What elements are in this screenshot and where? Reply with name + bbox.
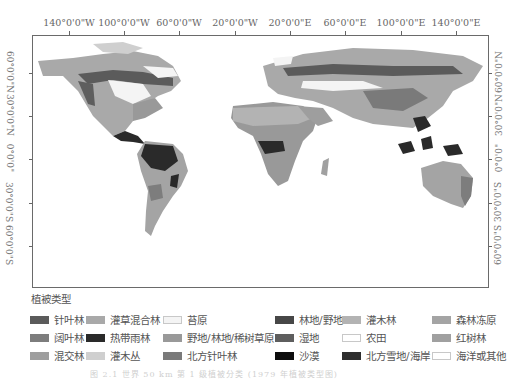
legend-swatch <box>275 334 294 342</box>
lon-label: 100°0'0"W <box>98 17 150 28</box>
legend-label: 灌木林 <box>366 312 396 327</box>
legend-swatch <box>86 316 105 324</box>
legend-item-savanna: 野地/林地/稀树草原 <box>163 330 274 345</box>
north-america <box>38 51 181 144</box>
legend-item-wetland: 湿地 <box>275 330 319 345</box>
legend-swatch <box>163 334 182 342</box>
legend-item-coniferous: 针叶林 <box>30 312 84 327</box>
legend-label: 灌木丛 <box>110 348 140 363</box>
legend-item-boreal-conifer: 北方针叶林 <box>163 348 237 363</box>
lon-label: 140°0'0"E <box>432 17 481 28</box>
legend-item-desert: 沙漠 <box>275 348 319 363</box>
legend-item-broadleaf: 阔叶林 <box>30 330 84 345</box>
legend-label: 农田 <box>366 330 386 345</box>
south-america <box>137 141 188 236</box>
legend-label: 针叶林 <box>54 312 84 327</box>
lon-label: 60°0'0"W <box>156 17 202 28</box>
lat-label: 30°0'0"S <box>4 182 14 222</box>
legend-label: 苔原 <box>187 312 207 327</box>
legend-swatch <box>432 334 451 342</box>
legend-item-ocean-other: 海洋或其他 <box>432 348 506 363</box>
se-asia-islands <box>398 136 463 156</box>
legend-swatch <box>163 352 182 360</box>
legend-swatch <box>30 334 49 342</box>
legend-label: 林地/野地 <box>299 312 343 327</box>
legend-label: 北方雪地/海岸 <box>366 348 430 363</box>
legend-swatch <box>342 316 361 324</box>
legend-label: 红树林 <box>456 330 486 345</box>
legend-swatch <box>432 352 451 360</box>
legend-item-mangrove: 红树林 <box>432 330 486 345</box>
map-canvas <box>33 36 489 288</box>
lon-label: 20°0'0"E <box>269 17 312 28</box>
legend-swatch <box>163 316 182 324</box>
lon-label: 100°0'0"E <box>377 17 426 28</box>
lat-label: 60°0'0"S <box>493 225 503 265</box>
lon-label: 60°0'0"E <box>324 17 367 28</box>
figure-caption: 图 2.1 世界 50 km 第 1 级植被分类 (1979 年植被类型图) <box>90 368 440 379</box>
legend-swatch <box>342 352 361 360</box>
lat-label: 0°0'0" <box>5 144 15 172</box>
lat-label: 60°0'0"S <box>4 225 14 265</box>
legend-swatch <box>86 352 105 360</box>
legend-item-cropland: 农田 <box>342 330 386 345</box>
legend-label: 北方针叶林 <box>187 348 237 363</box>
lon-label: 20°0'0"W <box>212 17 258 28</box>
legend-item-tundra: 苔原 <box>163 312 207 327</box>
lat-label: 30°0'0"N <box>494 94 504 136</box>
legend-swatch <box>30 352 49 360</box>
australia <box>421 161 473 208</box>
lat-label: 0°0'0" <box>494 144 504 172</box>
legend-label: 热带雨林 <box>110 330 150 345</box>
lat-label: 60°0'0"N <box>494 51 504 93</box>
legend-label: 灌草混合林 <box>110 312 160 327</box>
legend-label: 海洋或其他 <box>456 348 506 363</box>
legend-item-shrub-grass-mixed: 灌草混合林 <box>86 312 160 327</box>
legend-label: 混交林 <box>54 348 84 363</box>
legend-swatch <box>432 316 451 324</box>
legend-label: 湿地 <box>299 330 319 345</box>
world-vegetation-map <box>32 35 489 288</box>
legend-label: 阔叶林 <box>54 330 84 345</box>
legend-title: 植被类型 <box>31 291 71 306</box>
lat-label: 60°0'0"N <box>5 51 15 93</box>
legend-label: 沙漠 <box>299 348 319 363</box>
legend-item-shrub-thicket: 灌木丛 <box>86 348 140 363</box>
legend-item-tropical-rainforest: 热带雨林 <box>86 330 150 345</box>
legend-label: 野地/林地/稀树草原 <box>187 330 274 345</box>
lat-label: 30°0'0"S <box>493 182 503 222</box>
lon-label: 140°0'0"W <box>43 17 95 28</box>
lat-label: 30°0'0"N <box>5 94 15 136</box>
africa <box>231 102 333 186</box>
legend-item-mixed-forest: 混交林 <box>30 348 84 363</box>
legend-swatch <box>30 316 49 324</box>
legend-swatch <box>342 334 361 342</box>
legend-item-shrubland: 灌木林 <box>342 312 396 327</box>
legend-swatch <box>275 316 294 324</box>
legend-item-boreal-snow-coast: 北方雪地/海岸 <box>342 348 430 363</box>
legend-item-forest-tundra: 森林冻原 <box>432 312 496 327</box>
legend-label: 森林冻原 <box>456 312 496 327</box>
legend-swatch <box>275 352 294 360</box>
legend-swatch <box>86 334 105 342</box>
legend-item-woodland-wild: 林地/野地 <box>275 312 343 327</box>
